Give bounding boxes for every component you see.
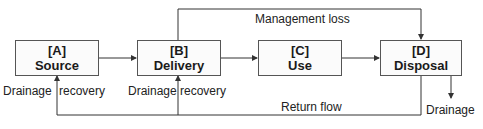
node-code: [C] [259, 43, 341, 58]
node-code: [B] [138, 43, 220, 58]
node-label: Disposal [381, 58, 461, 73]
node-label: Source [16, 58, 98, 73]
drainage-recovery-b-left: Drainage [128, 84, 177, 98]
node-delivery: [B] Delivery [137, 40, 221, 76]
node-disposal: [D] Disposal [380, 40, 462, 76]
drainage-label: Drainage [426, 103, 475, 117]
node-label: Delivery [138, 58, 220, 73]
return-flow-line [57, 75, 421, 115]
node-code: [D] [381, 43, 461, 58]
drainage-recovery-a-left: Drainage [3, 84, 52, 98]
node-code: [A] [16, 43, 98, 58]
management-loss-label: Management loss [255, 12, 350, 26]
return-flow-label: Return flow [281, 100, 342, 114]
node-label: Use [259, 58, 341, 73]
drainage-recovery-b-right: recovery [180, 84, 226, 98]
node-use: [C] Use [258, 40, 342, 76]
node-source: [A] Source [15, 40, 99, 76]
drainage-recovery-a-right: recovery [59, 84, 105, 98]
